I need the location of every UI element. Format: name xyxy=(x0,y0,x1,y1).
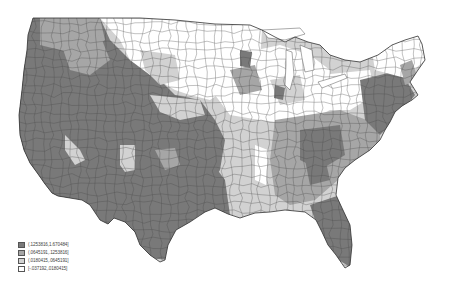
legend-swatch xyxy=(18,250,25,256)
map-legend: (.1253816,1.670484] (.0645191,.1253816] … xyxy=(18,241,69,273)
legend-label: (.0180415,.0645191] xyxy=(28,258,69,263)
region-border-line xyxy=(383,0,388,279)
legend-item: (.1253816,1.670484] xyxy=(18,241,69,249)
region-border-line xyxy=(428,0,433,279)
legend-item: (.0180415,.0645191] xyxy=(18,257,69,265)
legend-swatch xyxy=(18,266,25,272)
region-border-line xyxy=(437,0,442,279)
legend-label: [-.037192,.0180415] xyxy=(28,266,67,271)
region-border-line xyxy=(14,0,19,279)
region-border-line xyxy=(0,12,450,17)
legend-item: (.0645191,.1253816] xyxy=(18,249,69,257)
legend-item: [-.037192,.0180415] xyxy=(18,265,69,273)
legend-label: (.1253816,1.670484] xyxy=(28,242,69,247)
region-border-line xyxy=(0,228,450,233)
legend-swatch xyxy=(18,242,25,248)
region-border-line xyxy=(392,0,397,279)
legend-label: (.0645191,.1253816] xyxy=(28,250,69,255)
legend-swatch xyxy=(18,258,25,264)
region-border-line xyxy=(0,219,450,224)
region-minnesota-dark xyxy=(240,50,252,68)
